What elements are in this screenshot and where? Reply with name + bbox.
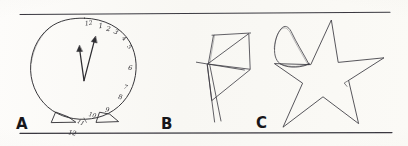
clock-hour-hand-arrowhead [77,45,83,51]
clock-minute-hand [84,39,95,81]
kite-cross-spar [196,62,244,70]
top-rule [20,12,390,14]
clock-numeral-2-2: 2 [105,24,112,33]
figure-drawing-canvas: 12123456789101112 [0,0,408,146]
panel-c-star-drawing [274,20,384,127]
clock-numeral-group: 12123456789101112 [68,19,134,138]
kite-inner-diagonal-retrace [210,35,215,63]
clock-face-circle [31,18,137,119]
clock-minute-hand-arrowhead [91,36,97,43]
panel-label-a: A [16,117,28,132]
star-extra-loop [275,26,309,67]
clock-hour-hand [79,48,84,81]
clock-numeral-12-0: 12 [84,19,93,27]
clock-numeral-3-3: 3 [112,28,119,37]
clock-numeral-1-1: 1 [98,22,103,30]
kite-top-spar [212,33,251,35]
kite-tail-line-1 [207,65,214,122]
clock-numeral-7-7: 7 [123,83,129,91]
panel-b-kite-drawing [196,33,250,122]
kite-inner-diagonal-secondary [208,36,213,64]
panel-a-clock-drawing [31,18,137,122]
panel-label-b: B [161,117,172,132]
clock-numeral-6-6: 6 [128,64,133,72]
clock-face-retrace [31,27,50,63]
figure-panel: 12123456789101112 [0,0,408,146]
kite-inner-diagonal [208,64,250,69]
star-right-arm-nick [344,80,348,86]
panel-label-c: C [256,116,267,131]
clock-foot-left [51,112,76,122]
clock-numeral-4-4: 4 [120,34,128,43]
star-outline [274,20,384,127]
clock-numeral-12-12: 12 [68,128,78,137]
star-extra-loop-retrace [274,28,308,65]
clock-numeral-8-8: 8 [118,93,123,102]
